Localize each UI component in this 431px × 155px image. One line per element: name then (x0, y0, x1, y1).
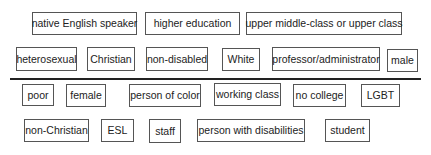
tag-white: White (222, 48, 260, 71)
tag-professor-administrator: professor/administrator (272, 47, 380, 71)
tag-esl: ESL (101, 119, 134, 142)
tag-staff: staff (149, 119, 181, 143)
tag-person-with-disabilities: person with disabilities (197, 119, 305, 142)
tag-no-college: no college (293, 84, 346, 107)
tag-female: female (66, 84, 106, 107)
tag-working-class: working class (214, 83, 281, 106)
tag-non-christian: non-Christian (24, 119, 89, 142)
tag-non-disabled: non-disabled (146, 47, 208, 71)
tag-upper-class: upper middle-class or upper class (246, 12, 402, 35)
tag-christian: Christian (87, 47, 135, 71)
tag-student: student (325, 119, 370, 142)
tag-poor: poor (22, 84, 54, 106)
tag-person-of-color: person of color (129, 84, 201, 107)
tag-native-english-speaker: native English speaker (32, 12, 137, 35)
tag-male: male (387, 49, 418, 72)
tag-higher-education: higher education (145, 12, 240, 35)
identity-diagram: native English speaker higher education … (0, 0, 431, 155)
divider-line (10, 78, 421, 80)
tag-heterosexual: heterosexual (16, 47, 77, 71)
tag-lgbt: LGBT (361, 84, 400, 107)
